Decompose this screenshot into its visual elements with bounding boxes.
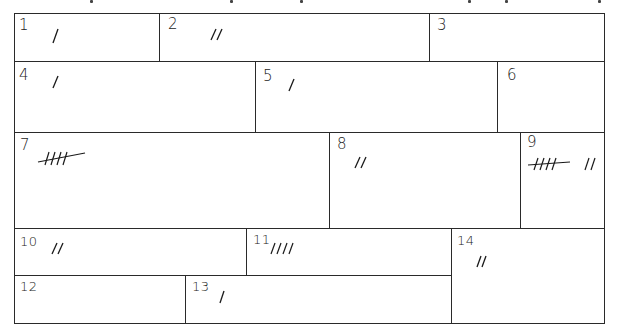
region-14: 14 — [451, 228, 605, 324]
tally-marks-icon — [474, 251, 494, 271]
region-8: 8 — [329, 132, 522, 230]
region-label: 2 — [168, 17, 178, 32]
region-9: 9 — [520, 132, 605, 230]
tally-marks-icon — [352, 153, 372, 173]
region-label: 5 — [263, 69, 273, 84]
region-10: 10 — [14, 228, 248, 277]
region-label: 1 — [19, 18, 29, 33]
region-label: 10 — [20, 235, 38, 248]
tally-marks-icon — [285, 75, 299, 95]
region-5: 5 — [255, 61, 499, 134]
region-3: 3 — [429, 13, 605, 63]
region-label: 6 — [507, 68, 517, 83]
tally-marks-icon — [49, 25, 63, 45]
region-6: 6 — [497, 61, 605, 134]
region-label: 4 — [19, 68, 29, 83]
tally-bundle-seven-icon — [526, 153, 602, 175]
region-label: 3 — [437, 18, 447, 33]
region-label: 13 — [192, 280, 210, 293]
region-label: 7 — [20, 138, 30, 153]
tally-marks-icon — [208, 24, 228, 44]
region-11: 11 — [246, 228, 453, 277]
region-7: 7 — [14, 132, 331, 230]
region-1: 1 — [14, 13, 161, 63]
region-4: 4 — [14, 61, 257, 134]
tally-marks-icon — [216, 286, 230, 306]
region-grid: 1 2 3 4 5 6 7 — [0, 0, 618, 335]
region-2: 2 — [159, 13, 431, 63]
tally-marks-icon — [49, 238, 69, 258]
tally-marks-icon — [267, 238, 307, 258]
region-label: 14 — [457, 234, 475, 247]
tally-marks-icon — [49, 72, 63, 92]
region-label: 12 — [20, 280, 38, 293]
region-label: 8 — [337, 137, 347, 152]
region-13: 13 — [185, 275, 453, 324]
region-label: 9 — [527, 135, 537, 150]
region-12: 12 — [14, 275, 187, 324]
tally-bundle-five-icon — [35, 148, 89, 170]
